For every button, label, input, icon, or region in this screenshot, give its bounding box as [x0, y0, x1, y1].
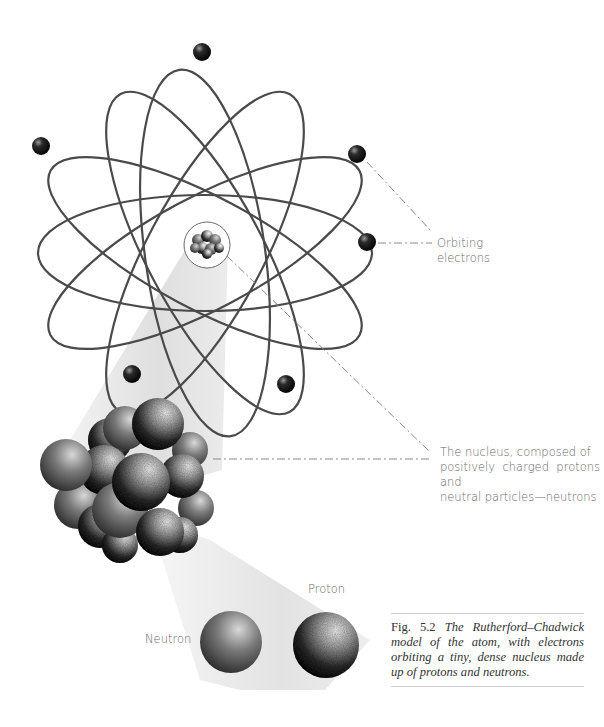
electron	[32, 137, 50, 155]
proton-label: Proton	[308, 582, 345, 597]
electron	[348, 145, 366, 163]
nucleus-label: The nucleus, composed of positively char…	[440, 445, 600, 505]
electron	[193, 43, 211, 61]
leader-nucleus-diagonal	[227, 256, 430, 452]
leader-electrons-diagonal	[367, 162, 432, 232]
label-line: electrons	[437, 251, 490, 266]
label-line: positively charged protons and	[440, 460, 600, 490]
neutron-sphere	[200, 611, 262, 673]
figure-caption: Fig. 5.2 The Rutherford–Chadwick model o…	[391, 613, 584, 687]
label-line: Orbiting	[437, 236, 490, 251]
electron	[277, 375, 295, 393]
label-line: neutral particles—neutrons	[440, 490, 600, 505]
figure-number: Fig. 5.2	[391, 620, 436, 634]
small-nucleus	[184, 222, 230, 268]
electron	[123, 365, 141, 383]
label-line: The nucleus, composed of	[440, 445, 600, 460]
electron	[358, 233, 376, 251]
proton-sphere	[293, 612, 359, 678]
neutron-label: Neutron	[145, 632, 191, 647]
orbiting-electrons-label: Orbiting electrons	[437, 236, 490, 266]
